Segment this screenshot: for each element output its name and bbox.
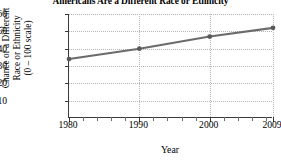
series-polyline (69, 28, 273, 59)
data-point-marker (207, 34, 212, 39)
plot-area (68, 14, 272, 118)
x-tick-label: 2000 (189, 120, 229, 130)
y-axis-title-line-3: Race or Ethnicity (12, 15, 23, 80)
y-axis-title-line-4: (0 – 100 scale) (23, 21, 34, 76)
y-tick-label: 40 (0, 44, 7, 54)
x-tick-label: 2009 (252, 120, 281, 130)
data-series-line (69, 14, 273, 118)
y-tick-label: 50 (0, 26, 7, 36)
y-tick-label: 10 (0, 96, 7, 106)
x-tick-label: 1990 (118, 120, 158, 130)
data-point-marker (67, 57, 72, 62)
chart-figure: Americans Are a Different Race or Ethnic… (0, 0, 281, 163)
x-tick-label: 1980 (48, 120, 88, 130)
x-axis-title: Year (68, 144, 272, 155)
data-point-marker (137, 46, 142, 51)
data-point-marker (271, 25, 276, 30)
y-tick-label: 20 (0, 78, 7, 88)
y-tick-label: 60 (0, 9, 7, 19)
chart-title: Americans Are a Different Race or Ethnic… (0, 0, 281, 7)
y-tick-label: 30 (0, 61, 7, 71)
